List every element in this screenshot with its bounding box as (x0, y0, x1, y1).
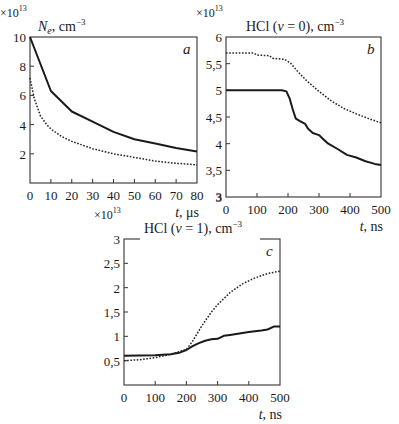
y-tick-label: 4 (216, 137, 223, 152)
series-solid (124, 327, 280, 356)
x-tick-label: 300 (309, 202, 329, 217)
y-tick-label: 2 (20, 147, 27, 162)
x-tick-label: 0 (223, 202, 230, 217)
x-tick-label: 500 (371, 202, 391, 217)
y-axis-title: HCl (v = 0), cm−3 (246, 17, 344, 35)
x-tick-label: 50 (128, 188, 141, 203)
x-tick-label: 10 (44, 188, 57, 203)
y-tick-label: 2 (114, 281, 121, 296)
plot-frame (124, 239, 280, 385)
x-tick-label: 30 (86, 188, 99, 203)
y-tick-label: 3 (114, 232, 121, 247)
scale-factor-label: ×1013 (196, 4, 223, 20)
y-axis-title: Ne, cm−3 (37, 17, 86, 36)
series-dotted (124, 271, 280, 361)
x-axis-title: t, ns (360, 219, 383, 234)
figure: 01020304050607080246810×1013Ne, cm−3at, … (0, 0, 399, 424)
x-tick-label: 70 (170, 188, 183, 203)
series-dotted (226, 53, 381, 123)
y-tick-label: 6 (20, 88, 27, 103)
x-tick-label: 500 (270, 390, 290, 405)
chart-panel-c: 01002003004005000,511,522,53×1013HCl (v … (94, 206, 290, 422)
series-solid (30, 37, 197, 152)
x-tick-label: 200 (278, 202, 298, 217)
series-dotted (30, 78, 197, 165)
y-tick-label: 10 (13, 30, 26, 45)
x-tick-label: 80 (191, 188, 204, 203)
y-tick-label: 6 (216, 30, 223, 45)
y-tick-label: 4 (20, 118, 27, 133)
plot-frame (226, 37, 381, 197)
chart-panel-a: 01020304050607080246810×1013Ne, cm−3at, … (0, 4, 204, 220)
y-tick-label: 8 (20, 59, 27, 74)
x-tick-label: 100 (247, 202, 267, 217)
scale-factor-label: ×1013 (94, 206, 121, 222)
y-tick-label: 3 (216, 189, 223, 204)
panel-letter: c (266, 243, 273, 259)
y-tick-label: 1,5 (104, 305, 120, 320)
plot-frame (30, 37, 197, 183)
x-axis-title: t, μs (175, 205, 199, 220)
x-tick-label: 60 (149, 188, 162, 203)
y-tick-label: 0,5 (104, 354, 120, 369)
x-axis-title: t, ns (259, 407, 282, 422)
y-tick-label: 5 (216, 83, 223, 98)
x-tick-label: 400 (340, 202, 360, 217)
series-solid (226, 90, 381, 165)
x-tick-label: 200 (177, 390, 197, 405)
chart-panel-b: 010020030040050033,544,555,563×1013HCl (… (196, 4, 391, 234)
panel-letter: b (367, 41, 375, 57)
scale-factor-label: ×1013 (0, 4, 27, 20)
y-tick-label: 3,5 (206, 163, 222, 178)
x-tick-label: 40 (107, 188, 120, 203)
x-tick-label: 300 (208, 390, 228, 405)
y-tick-label: 4,5 (206, 110, 222, 125)
x-tick-label: 400 (239, 390, 259, 405)
y-tick-label: 1 (114, 329, 121, 344)
x-tick-label: 20 (65, 188, 78, 203)
x-tick-label: 0 (27, 188, 34, 203)
x-tick-label: 100 (145, 390, 165, 405)
y-tick-label: 2,5 (104, 256, 120, 271)
x-tick-label: 0 (121, 390, 128, 405)
panel-letter: a (183, 41, 191, 57)
y-tick-label: 5,5 (206, 57, 222, 72)
y-axis-title: HCl (v = 1), cm−3 (144, 219, 242, 237)
